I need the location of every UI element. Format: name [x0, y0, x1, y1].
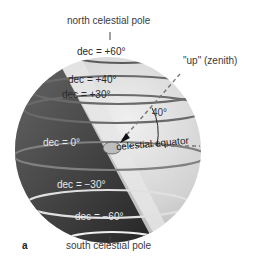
panel-label: a: [22, 240, 28, 251]
dec-plus-30-label: dec = +30°: [62, 89, 110, 100]
dec-plus-60-label: dec = +60°: [77, 46, 125, 57]
dec-minus-30-label: dec = −30°: [57, 179, 105, 190]
zenith-label: "up" (zenith): [183, 55, 237, 66]
dec-plus-40-label: dec = +40°: [68, 74, 116, 85]
celestial-sphere-diagram: [0, 0, 256, 263]
south-pole-label: south celestial pole: [66, 240, 151, 251]
dec-minus-60-label: dec = −60°: [75, 211, 123, 222]
angle-label: 40°: [152, 107, 167, 118]
dec-0-label: dec = 0°: [43, 137, 80, 148]
north-pole-label: north celestial pole: [67, 15, 150, 26]
